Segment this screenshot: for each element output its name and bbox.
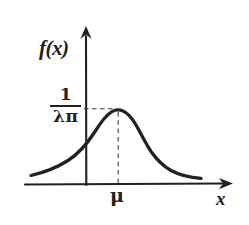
fraction-numerator: 1: [57, 86, 75, 105]
y-axis-label: f(x): [39, 38, 68, 59]
x-axis-tick-label-mu: μ: [110, 186, 124, 205]
peak-height-label: 1 λπ: [50, 86, 81, 126]
fraction-denominator: λπ: [50, 107, 81, 126]
plot-svg: [0, 0, 249, 225]
figure-canvas: f(x) 1 λπ μ x: [0, 0, 249, 225]
x-axis-label: x: [216, 189, 226, 208]
y-axis: [80, 26, 91, 185]
